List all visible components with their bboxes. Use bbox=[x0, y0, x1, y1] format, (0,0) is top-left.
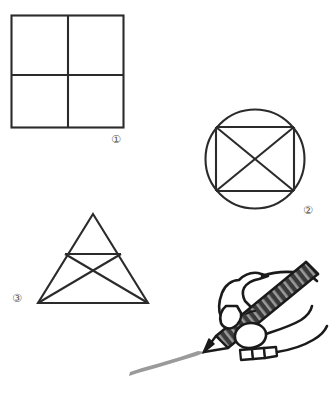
drawn-pencil-stroke bbox=[129, 351, 206, 376]
figure-2-label: ② bbox=[303, 205, 313, 216]
worksheet-canvas: ① ② ③ bbox=[0, 0, 333, 408]
figure-3-triangle-outline bbox=[38, 214, 148, 303]
hand-middle-finger-knuckle bbox=[235, 323, 266, 348]
hand-lower-edge bbox=[277, 326, 327, 352]
figure-3-label: ③ bbox=[12, 293, 22, 304]
figures-illustration-svg bbox=[0, 0, 333, 408]
figure-3-triangle-with-midline bbox=[38, 214, 148, 303]
hand-with-pencil-illustration bbox=[129, 262, 327, 376]
figure-1-square-divided-in-four bbox=[12, 16, 124, 128]
hand-curled-finger-3 bbox=[264, 347, 277, 358]
hand-thumb bbox=[220, 306, 241, 328]
figure-2-circle-with-inscribed-rectangle bbox=[206, 110, 305, 209]
figure-1-label: ① bbox=[111, 134, 121, 145]
